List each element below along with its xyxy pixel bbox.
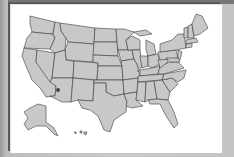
state-ny[interactable] — [160, 34, 186, 52]
state-wy[interactable] — [65, 42, 94, 62]
location-marker[interactable] — [56, 88, 60, 92]
state-me[interactable] — [192, 14, 208, 36]
state-wa[interactable] — [30, 16, 55, 34]
us-map — [10, 4, 222, 153]
state-sd[interactable] — [93, 42, 118, 56]
state-nm[interactable] — [71, 78, 94, 102]
state-ma[interactable] — [186, 38, 198, 44]
state-fl[interactable] — [148, 99, 178, 128]
state-md[interactable] — [166, 58, 180, 62]
state-or[interactable] — [24, 32, 55, 49]
state-nd[interactable] — [94, 28, 117, 42]
state-vt[interactable] — [184, 27, 188, 38]
state-hi[interactable] — [74, 131, 87, 135]
state-ms[interactable] — [136, 82, 146, 102]
state-nj[interactable] — [178, 50, 182, 60]
state-ak[interactable] — [24, 104, 58, 136]
state-ar[interactable] — [123, 78, 138, 94]
state-co[interactable] — [73, 61, 98, 80]
state-ks[interactable] — [97, 66, 123, 80]
